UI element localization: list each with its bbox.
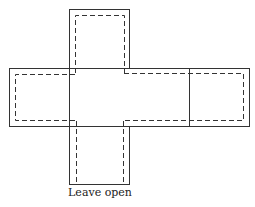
- leave-open-label: Leave open: [62, 186, 138, 199]
- right-tab-dashed: [124, 74, 244, 121]
- horizontal-strip: [10, 69, 250, 127]
- cube-net-diagram: [0, 0, 255, 207]
- left-tab-dashed: [16, 75, 78, 121]
- top-tab-dashed: [76, 16, 125, 74]
- bottom-flap: [70, 127, 130, 185]
- top-flap: [70, 10, 130, 69]
